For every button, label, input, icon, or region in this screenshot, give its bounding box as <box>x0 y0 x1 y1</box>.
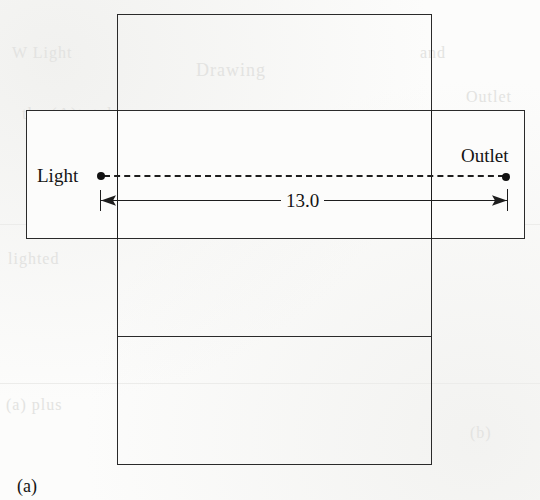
dashed-run-line <box>104 175 504 177</box>
lower-fold-line <box>118 336 431 337</box>
ghost-text: W Light <box>12 44 72 62</box>
outlet-label: Outlet <box>461 146 509 165</box>
ghost-text: lighted <box>8 250 59 268</box>
ghost-text: (b) <box>470 424 492 442</box>
dimension-arrowhead-left-icon <box>100 193 118 208</box>
outlet-point-dot <box>502 173 510 181</box>
figure-panel-a: W Light Drawing the (A)tutels lighted (a… <box>0 0 540 500</box>
light-point-dot <box>97 172 105 180</box>
vertical-panel-rect <box>117 14 432 465</box>
figure-caption: (a) <box>17 477 37 495</box>
ghost-text: Outlet <box>466 88 512 106</box>
light-label: Light <box>37 166 78 185</box>
dimension-arrowhead-right-icon <box>490 193 508 208</box>
ghost-text: (a) plus <box>6 396 62 414</box>
dimension-value-label: 13.0 <box>281 191 324 210</box>
